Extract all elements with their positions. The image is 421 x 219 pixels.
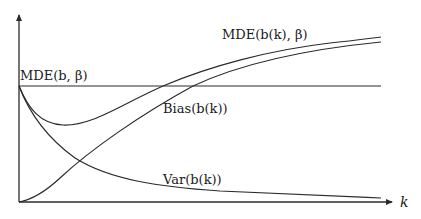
label-bias: Bias(b(k)) (163, 101, 228, 116)
x-axis-label-k: k (400, 194, 408, 210)
mde-bias-variance-diagram: MDE(b, β) MDE(b(k), β) Bias(b(k)) Var(b(… (0, 0, 421, 219)
label-variance: Var(b(k)) (162, 172, 222, 187)
label-mde-b-beta: MDE(b, β) (20, 68, 87, 83)
label-mde-bk-beta: MDE(b(k), β) (222, 27, 308, 42)
